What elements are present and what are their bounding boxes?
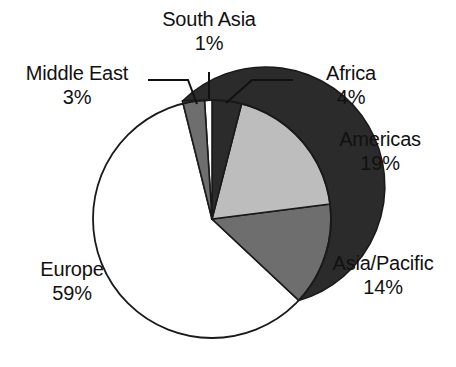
- slice-label-europe: Europe 59%: [6, 258, 138, 305]
- slice-label-middle-east: Middle East 3%: [2, 62, 152, 109]
- slice-label-asia-pacific-value: 14%: [310, 276, 456, 300]
- slice-label-americas: Americas 19%: [306, 128, 454, 175]
- slice-label-asia-pacific: Asia/Pacific 14%: [310, 252, 456, 299]
- slice-label-americas-value: 19%: [306, 152, 454, 176]
- slice-label-middle-east-value: 3%: [2, 86, 152, 110]
- slice-label-europe-value: 59%: [6, 282, 138, 306]
- pie-chart-figure: South Asia 1% Middle East 3% Africa 4% A…: [0, 0, 456, 367]
- slice-label-africa: Africa 4%: [296, 62, 406, 109]
- slice-label-south-asia-name: South Asia: [124, 8, 294, 32]
- slice-label-africa-value: 4%: [296, 86, 406, 110]
- slice-label-asia-pacific-name: Asia/Pacific: [310, 252, 456, 276]
- slice-label-americas-name: Americas: [306, 128, 454, 152]
- slice-label-africa-name: Africa: [296, 62, 406, 86]
- slice-label-middle-east-name: Middle East: [2, 62, 152, 86]
- slice-label-south-asia: South Asia 1%: [124, 8, 294, 55]
- slice-label-south-asia-value: 1%: [124, 32, 294, 56]
- slice-label-europe-name: Europe: [6, 258, 138, 282]
